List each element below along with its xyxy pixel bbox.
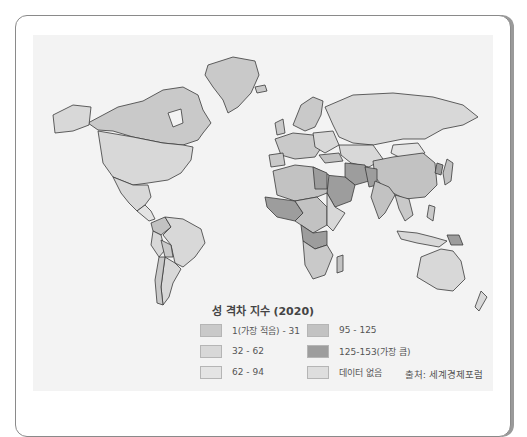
region-uk xyxy=(275,119,285,135)
legend-label: 32 - 62 xyxy=(232,346,264,356)
map-panel: 성 격차 지수 (2020) 1(가장 적음) - 31 32 - 62 62 … xyxy=(33,35,493,391)
legend-item-125-153: 125-153(가장 큼) xyxy=(307,343,411,359)
region-madagascar xyxy=(337,255,343,273)
region-papua-new-guinea xyxy=(447,235,463,245)
region-australia xyxy=(417,249,465,291)
legend-item-no-data: 데이터 없음 xyxy=(307,364,382,380)
region-russia xyxy=(325,93,478,145)
region-alaska xyxy=(53,105,91,133)
legend-title: 성 격차 지수 (2020) xyxy=(33,302,493,318)
legend-item-95-125: 95 - 125 xyxy=(307,322,377,338)
region-philippines xyxy=(427,205,435,221)
region-egypt xyxy=(313,167,327,189)
legend-label: 95 - 125 xyxy=(339,325,377,335)
world-choropleth-map xyxy=(33,35,493,325)
legend-item-62-94: 62 - 94 xyxy=(200,364,264,380)
legend-swatch xyxy=(307,345,329,358)
legend-label: 125-153(가장 큼) xyxy=(339,345,411,358)
region-greenland xyxy=(205,57,259,113)
legend-label: 데이터 없음 xyxy=(339,366,382,379)
source-credit: 출처: 세계경제포럼 xyxy=(405,367,483,381)
legend-swatch xyxy=(307,324,329,337)
legend-label: 62 - 94 xyxy=(232,367,264,377)
region-japan xyxy=(443,159,453,185)
region-korea xyxy=(435,163,443,175)
legend-item-1-31: 1(가장 적음) - 31 xyxy=(200,322,300,338)
legend-swatch xyxy=(200,324,222,337)
region-iberia xyxy=(269,153,285,167)
legend-swatch xyxy=(200,366,222,379)
legend-swatch xyxy=(200,345,222,358)
region-scandinavia xyxy=(293,97,323,131)
legend-swatch xyxy=(307,366,329,379)
region-indonesia xyxy=(397,231,447,247)
legend-item-32-62: 32 - 62 xyxy=(200,343,264,359)
region-turkey xyxy=(319,153,343,163)
legend-label: 1(가장 적음) - 31 xyxy=(232,324,300,337)
region-southeast-asia xyxy=(395,195,413,221)
region-iceland xyxy=(255,85,267,93)
